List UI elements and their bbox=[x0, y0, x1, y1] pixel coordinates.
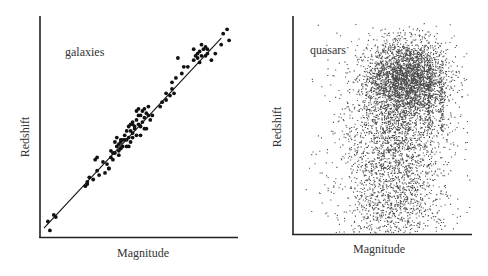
galaxy-point bbox=[139, 133, 143, 137]
galaxy-point bbox=[143, 116, 147, 120]
galaxy-point bbox=[198, 61, 202, 65]
galaxy-point bbox=[119, 138, 123, 142]
quasars-y-label: Redshift bbox=[270, 106, 284, 147]
galaxy-point bbox=[119, 147, 123, 151]
galaxy-point bbox=[200, 54, 204, 58]
galaxy-point bbox=[123, 133, 127, 137]
galaxy-point bbox=[129, 140, 133, 144]
galaxy-point bbox=[141, 120, 145, 124]
figure-canvas: galaxies Magnitude Redshift quasars Magn… bbox=[0, 0, 488, 276]
galaxy-point bbox=[115, 145, 119, 149]
galaxy-point bbox=[148, 118, 152, 122]
galaxy-point bbox=[213, 52, 217, 56]
galaxy-point bbox=[170, 80, 174, 84]
galaxy-point bbox=[147, 105, 151, 109]
galaxy-point bbox=[225, 27, 229, 31]
galaxy-point bbox=[198, 50, 202, 54]
galaxy-point bbox=[111, 151, 115, 155]
galaxy-point bbox=[97, 173, 101, 177]
galaxy-point bbox=[54, 215, 58, 219]
galaxy-point bbox=[125, 145, 129, 149]
galaxy-point bbox=[95, 169, 99, 173]
galaxy-point bbox=[143, 107, 147, 111]
galaxy-point bbox=[219, 43, 223, 47]
galaxy-point bbox=[196, 56, 200, 60]
galaxy-point bbox=[210, 58, 214, 62]
galaxy-point bbox=[117, 153, 121, 157]
galaxy-point bbox=[125, 129, 129, 133]
galaxy-point bbox=[129, 122, 133, 126]
galaxy-point bbox=[139, 125, 143, 129]
galaxy-point bbox=[115, 136, 119, 140]
galaxy-point bbox=[170, 87, 174, 91]
galaxy-point bbox=[164, 91, 168, 95]
quasars-chart: quasars Magnitude Redshift bbox=[270, 16, 472, 256]
galaxy-point bbox=[127, 136, 131, 140]
galaxy-point bbox=[93, 158, 97, 162]
galaxy-point bbox=[145, 127, 149, 131]
galaxy-point bbox=[186, 65, 190, 69]
galaxy-point bbox=[85, 180, 89, 184]
galaxy-point bbox=[87, 175, 91, 179]
galaxy-point bbox=[113, 140, 117, 144]
galaxy-point bbox=[150, 114, 154, 118]
galaxies-annotation: galaxies bbox=[65, 45, 105, 59]
galaxy-point bbox=[135, 133, 139, 137]
galaxy-point bbox=[160, 100, 164, 104]
galaxy-point bbox=[103, 171, 107, 175]
galaxy-point bbox=[131, 131, 135, 135]
galaxy-point bbox=[180, 72, 184, 76]
galaxy-point bbox=[192, 58, 196, 62]
quasars-x-label: Magnitude bbox=[353, 242, 405, 256]
galaxy-point bbox=[168, 94, 172, 98]
galaxy-point bbox=[131, 136, 135, 140]
galaxy-point bbox=[101, 160, 105, 164]
galaxy-point bbox=[46, 220, 50, 224]
figure: galaxies Magnitude Redshift quasars Magn… bbox=[0, 0, 488, 276]
galaxy-point bbox=[105, 162, 109, 166]
galaxy-point bbox=[182, 65, 186, 69]
galaxy-point bbox=[133, 127, 137, 131]
galaxy-point bbox=[164, 98, 168, 102]
galaxy-point bbox=[135, 118, 139, 122]
quasars-annotation: quasars bbox=[310, 43, 346, 57]
galaxy-point bbox=[91, 178, 95, 182]
galaxy-point bbox=[192, 47, 196, 51]
galaxy-point bbox=[107, 167, 111, 171]
galaxy-point bbox=[206, 52, 210, 56]
galaxies-y-label: Redshift bbox=[18, 116, 32, 157]
galaxy-point bbox=[135, 109, 139, 113]
galaxy-point bbox=[176, 56, 180, 60]
galaxy-point bbox=[172, 91, 176, 95]
galaxy-point bbox=[139, 114, 143, 118]
galaxy-point bbox=[147, 114, 151, 118]
galaxy-point bbox=[221, 32, 225, 36]
galaxy-point bbox=[206, 47, 210, 51]
galaxy-point bbox=[111, 158, 115, 162]
galaxy-point bbox=[174, 76, 178, 80]
galaxy-point bbox=[48, 229, 52, 233]
galaxy-point bbox=[158, 105, 162, 109]
galaxies-x-label: Magnitude bbox=[117, 246, 169, 260]
galaxies-chart: galaxies Magnitude Redshift bbox=[18, 16, 238, 260]
galaxy-point bbox=[200, 43, 204, 47]
galaxy-point bbox=[227, 38, 231, 42]
